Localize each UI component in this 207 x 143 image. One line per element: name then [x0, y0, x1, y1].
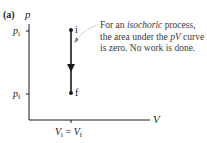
x-axis-label: V	[153, 114, 160, 125]
y-axis-label: p	[25, 9, 31, 20]
annotation-leader	[76, 25, 98, 40]
pf-label: pf	[13, 89, 20, 101]
panel-label: (a)	[3, 10, 15, 20]
point-i-label: i	[75, 25, 78, 35]
pi-label: pi	[13, 26, 20, 38]
point-i	[69, 28, 73, 32]
arrow-down-icon	[67, 64, 75, 72]
point-f	[69, 91, 73, 95]
isochoric-annotation: For an isochoric process, the area under…	[100, 20, 207, 55]
point-f-label: f	[75, 88, 78, 98]
volume-tick-label: Vi = Vf	[55, 127, 82, 139]
